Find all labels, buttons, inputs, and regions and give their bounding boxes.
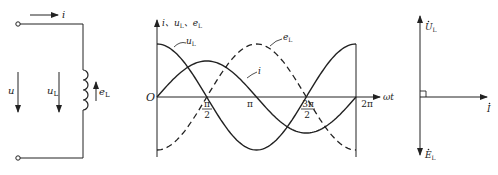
curve-label-eL: eL: [283, 32, 292, 43]
diagram-canvas: i u uL eL i、uL、eL ωt O π 2 π 3π 2 2π uL …: [0, 0, 498, 175]
phasor-dot: [428, 149, 430, 151]
bottom-wire: [20, 110, 83, 158]
waveform-chart: i、uL、eL ωt O π 2 π 3π 2 2π uL i eL: [146, 18, 394, 157]
source-voltage-label: u: [8, 85, 14, 96]
terminal-bottom: [16, 156, 20, 160]
phasor-UL-label: UL: [425, 22, 437, 33]
leader-eL: [270, 39, 282, 46]
emf-label: eL: [99, 86, 110, 99]
inductor-coil-icon: [83, 70, 88, 110]
leader-i: [247, 72, 257, 78]
curve-label-i: i: [258, 66, 261, 76]
current-label: i: [62, 9, 65, 20]
phasor-I-label: I: [486, 104, 491, 114]
terminal-top: [16, 22, 20, 26]
tick-pi-half-den: 2: [204, 110, 210, 120]
x-axis-label: ωt: [383, 92, 394, 102]
tick-pi: π: [247, 99, 253, 109]
curve-label-uL: uL: [186, 36, 196, 47]
phasor-dot: [428, 21, 430, 23]
phasor-EL-label: EL: [424, 150, 436, 161]
inductor-voltage-label: uL: [47, 85, 58, 98]
y-axis-label: i、uL、eL: [162, 18, 202, 29]
phasor-diagram: UL I EL: [420, 16, 491, 161]
circuit-diagram: i u uL eL: [8, 9, 110, 160]
leader-uL: [174, 43, 186, 48]
top-wire: [20, 24, 83, 70]
origin-label: O: [146, 91, 155, 104]
right-angle-icon: [420, 91, 426, 97]
phasor-dot: [489, 103, 491, 105]
tick-three-pi-half-den: 2: [304, 110, 310, 120]
tick-two-pi: 2π: [361, 99, 373, 109]
